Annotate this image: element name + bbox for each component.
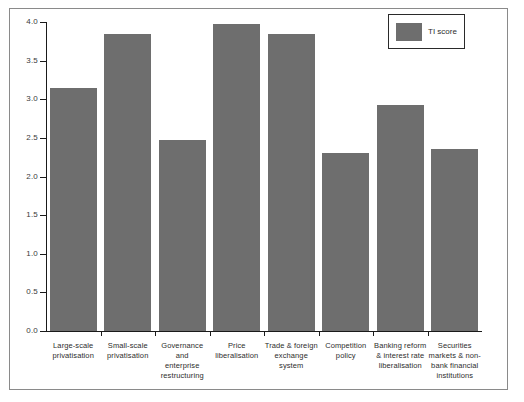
bar-chart-figure: 4.03.53.02.52.01.51.00.50.0 Large-scalep… [0, 0, 524, 402]
y-tick-label: 1.5 [4, 210, 38, 219]
y-tick-label: 3.0 [4, 94, 38, 103]
y-tick-label: 1.0 [4, 249, 38, 258]
y-tick-label: 2.5 [4, 133, 38, 142]
bar-7[interactable] [377, 105, 424, 331]
bar-2[interactable] [104, 34, 151, 331]
category-label-line: Trade & foreign [264, 341, 319, 351]
x-tick-mark [373, 331, 374, 336]
legend-swatch-ti-score [396, 23, 422, 41]
y-axis-tick-labels: 4.03.53.02.52.01.51.00.50.0 [0, 0, 38, 402]
category-label-5: Trade & foreignexchange system [264, 341, 319, 371]
bar-5[interactable] [268, 34, 315, 331]
y-tick-label: 0.0 [4, 326, 38, 335]
category-label-line: institutions [428, 371, 483, 381]
category-label-line: Banking reform [373, 341, 428, 351]
category-label-line: policy [319, 351, 374, 361]
category-label-line: Small-scale [101, 341, 156, 351]
category-label-7: Banking reform& interest rateliberalisat… [373, 341, 428, 371]
legend-label-ti-score: TI score [428, 27, 457, 36]
category-label-line: exchange system [264, 351, 319, 371]
category-label-2: Small-scaleprivatisation [101, 341, 156, 361]
x-tick-mark [155, 331, 156, 336]
category-label-line: Competition [319, 341, 374, 351]
category-label-line: restructuring [155, 371, 210, 381]
bar-1[interactable] [50, 88, 97, 331]
category-label-line: markets & non- [428, 351, 483, 361]
category-label-line: Large-scale [46, 341, 101, 351]
x-tick-mark [101, 331, 102, 336]
category-label-4: Priceliberalisation [210, 341, 265, 361]
bar-8[interactable] [431, 149, 478, 331]
bar-6[interactable] [322, 153, 369, 331]
category-label-line: Governance and [155, 341, 210, 361]
bar-4[interactable] [213, 24, 260, 331]
bar-3[interactable] [159, 140, 206, 331]
chart-legend: TI score [388, 14, 465, 49]
x-tick-mark [319, 331, 320, 336]
category-label-6: Competitionpolicy [319, 341, 374, 361]
x-tick-mark [210, 331, 211, 336]
category-label-line: & interest rate [373, 351, 428, 361]
category-label-line: bank financial [428, 361, 483, 371]
category-label-line: privatisation [101, 351, 156, 361]
category-label-line: liberalisation [373, 361, 428, 371]
category-label-3: Governance andenterpriserestructuring [155, 341, 210, 381]
y-tick-label: 0.5 [4, 287, 38, 296]
y-tick-label: 3.5 [4, 56, 38, 65]
x-axis-category-labels: Large-scaleprivatisationSmall-scalepriva… [46, 341, 482, 397]
category-label-line: privatisation [46, 351, 101, 361]
y-tick-label: 4.0 [4, 17, 38, 26]
category-label-line: Price [210, 341, 265, 351]
category-label-line: Securities [428, 341, 483, 351]
y-tick-label: 2.0 [4, 172, 38, 181]
category-label-8: Securitiesmarkets & non-bank financialin… [428, 341, 483, 381]
category-label-line: liberalisation [210, 351, 265, 361]
x-tick-mark [428, 331, 429, 336]
x-tick-mark [264, 331, 265, 336]
category-label-line: enterprise [155, 361, 210, 371]
category-label-1: Large-scaleprivatisation [46, 341, 101, 361]
